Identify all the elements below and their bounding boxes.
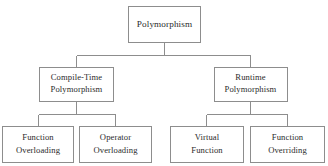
node-compile-time-polymorphism-label-line1: Compile-Time: [51, 72, 103, 82]
node-virtual-function-label-line2: Function: [191, 145, 223, 155]
node-runtime-polymorphism-label-line2: Polymorphism: [225, 84, 277, 94]
node-function-overloading[interactable]: Function Overloading: [3, 127, 74, 163]
node-function-overriding-label-line1: Function: [272, 132, 304, 142]
node-function-overriding[interactable]: Function Overriding: [251, 127, 325, 163]
node-function-overloading-label-line2: Overloading: [16, 145, 61, 155]
node-compile-time-polymorphism-label-line2: Polymorphism: [51, 84, 103, 94]
node-polymorphism-label: Polymorphism: [137, 19, 192, 29]
node-operator-overloading-label-line2: Overloading: [93, 145, 138, 155]
node-runtime-polymorphism-label-line1: Runtime: [235, 72, 265, 82]
node-virtual-function[interactable]: Virtual Function: [171, 127, 244, 163]
node-operator-overloading-label-line1: Operator: [100, 132, 131, 142]
node-runtime-polymorphism[interactable]: Runtime Polymorphism: [215, 68, 288, 102]
polymorphism-hierarchy-diagram: Polymorphism Compile-Time Polymorphism R…: [0, 0, 328, 166]
node-virtual-function-label-line1: Virtual: [195, 132, 220, 142]
node-polymorphism[interactable]: Polymorphism: [129, 7, 201, 43]
node-compile-time-polymorphism[interactable]: Compile-Time Polymorphism: [40, 68, 114, 102]
node-function-overloading-label-line1: Function: [22, 132, 54, 142]
node-function-overriding-label-line2: Overriding: [268, 145, 307, 155]
node-operator-overloading[interactable]: Operator Overloading: [80, 127, 152, 163]
diagram-canvas: Polymorphism Compile-Time Polymorphism R…: [0, 0, 328, 166]
